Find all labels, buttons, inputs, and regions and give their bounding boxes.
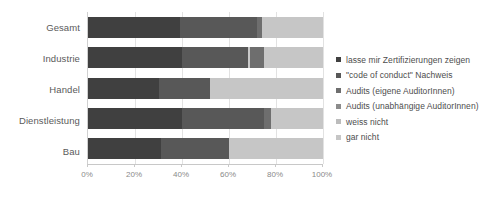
- bar-segment: [250, 47, 264, 68]
- bar-segment: [264, 108, 271, 129]
- x-axis-tick-label: 20%: [126, 170, 142, 179]
- legend-item[interactable]: Audits (unabhängige AuditorInnen): [336, 99, 493, 115]
- x-axis-line: [87, 164, 323, 165]
- bar-segment: [271, 108, 323, 129]
- legend-swatch-icon: [336, 73, 341, 78]
- x-axis-tick-mark: [228, 164, 229, 167]
- bar-row: [88, 138, 323, 159]
- bar-segment: [182, 108, 264, 129]
- legend-item[interactable]: gar nicht: [336, 130, 493, 146]
- plot-area: [87, 12, 323, 164]
- legend-item[interactable]: Audits (eigene AuditorInnen): [336, 83, 493, 99]
- legend-swatch-icon: [336, 119, 341, 124]
- legend-item-label: Audits (eigene AuditorInnen): [346, 86, 455, 96]
- y-axis-label-bau: Bau: [0, 146, 80, 157]
- x-axis-tick-mark: [275, 164, 276, 167]
- legend-item[interactable]: lasse mir Zertifizierungen zeigen: [336, 52, 493, 68]
- x-axis-tick-mark: [181, 164, 182, 167]
- bar-row: [88, 47, 323, 68]
- x-axis-tick-label: 40%: [173, 170, 189, 179]
- legend-item-label: weiss nicht: [346, 117, 388, 127]
- bar-row: [88, 78, 323, 99]
- x-axis-tick-label: 80%: [267, 170, 283, 179]
- bar-segment: [262, 17, 323, 38]
- bar-segment: [88, 47, 182, 68]
- legend-item[interactable]: weiss nicht: [336, 114, 493, 130]
- y-axis-category-labels: Gesamt Industrie Handel Dienstleistung B…: [0, 12, 84, 164]
- bar-segment: [182, 47, 248, 68]
- bar-segment: [264, 47, 323, 68]
- x-axis-tick-label: 0%: [81, 170, 93, 179]
- bar-segment: [229, 138, 323, 159]
- bar-segment: [210, 78, 323, 99]
- x-axis-tick-label: 60%: [220, 170, 236, 179]
- legend-item-label: lasse mir Zertifizierungen zeigen: [346, 55, 470, 65]
- y-axis-label-gesamt: Gesamt: [0, 22, 80, 33]
- bar-segment: [88, 108, 182, 129]
- bar-segment: [159, 78, 211, 99]
- legend-swatch-icon: [336, 57, 341, 62]
- x-axis-tick-label: 100%: [312, 170, 332, 179]
- bar-row: [88, 17, 323, 38]
- legend-swatch-icon: [336, 104, 341, 109]
- legend-item-label: "code of conduct" Nachweis: [346, 70, 453, 80]
- plot-area-wrapper: Gesamt Industrie Handel Dienstleistung B…: [0, 0, 330, 197]
- chart-legend: lasse mir Zertifizierungen zeigen"code o…: [336, 52, 493, 145]
- gridline: [323, 12, 324, 164]
- x-axis-tick-mark: [322, 164, 323, 167]
- bar-segment: [180, 17, 258, 38]
- bar-segment: [88, 17, 180, 38]
- bar-row: [88, 108, 323, 129]
- legend-swatch-icon: [336, 88, 341, 93]
- legend-item[interactable]: "code of conduct" Nachweis: [336, 68, 493, 84]
- legend-item-label: Audits (unabhängige AuditorInnen): [346, 101, 479, 111]
- bar-segment: [88, 138, 161, 159]
- legend-item-label: gar nicht: [346, 132, 379, 142]
- x-axis-tick-mark: [87, 164, 88, 167]
- stacked-bar-chart: Gesamt Industrie Handel Dienstleistung B…: [0, 0, 493, 197]
- y-axis-label-handel: Handel: [0, 84, 80, 95]
- bar-segment: [161, 138, 229, 159]
- x-axis-tick-mark: [134, 164, 135, 167]
- y-axis-label-industrie: Industrie: [0, 53, 80, 64]
- bar-segment: [88, 78, 159, 99]
- legend-swatch-icon: [336, 135, 341, 140]
- y-axis-label-dienstleistung: Dienstleistung: [0, 115, 80, 126]
